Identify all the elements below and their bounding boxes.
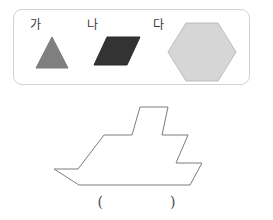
answer-blank: ( ) <box>0 193 273 211</box>
shape-label-ga: 가 <box>30 19 41 31</box>
shape-label-na: 나 <box>87 19 98 31</box>
shape-label-da: 다 <box>153 19 164 31</box>
close-paren: ) <box>170 193 175 211</box>
triangle-shape-icon <box>35 35 69 69</box>
hexagon-shape-icon <box>166 22 238 82</box>
boat-outline-figure <box>52 99 202 191</box>
page-root: 가 나 다 ( ) <box>0 0 273 220</box>
parallelogram-shape-icon <box>93 36 141 66</box>
shape-reference-panel: 가 나 다 <box>13 9 250 85</box>
open-paren: ( <box>98 193 103 211</box>
